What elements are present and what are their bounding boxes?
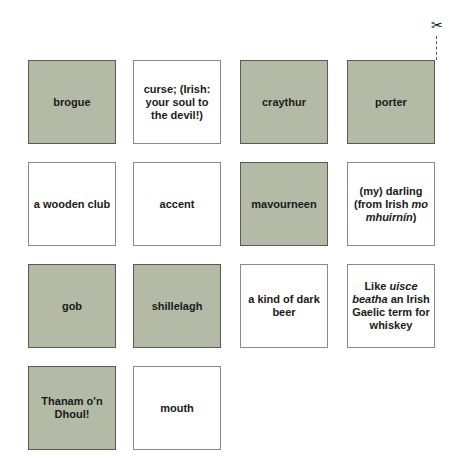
card-text: a wooden club bbox=[34, 198, 110, 211]
card-term-porter[interactable]: porter bbox=[347, 60, 435, 144]
card-definition-wooden-club[interactable]: a wooden club bbox=[28, 162, 116, 246]
card-term-mavourneen[interactable]: mavourneen bbox=[240, 162, 328, 246]
card-text: Like uisce beatha an Irish Gaelic term f… bbox=[352, 280, 430, 332]
card-text: Thanam o'n Dhoul! bbox=[33, 395, 111, 421]
card-text: (my) darling (from Irish mo mhuirnín) bbox=[352, 185, 430, 224]
card-term-shillelagh[interactable]: shillelagh bbox=[133, 264, 221, 348]
card-text: mavourneen bbox=[251, 198, 316, 211]
card-text: craythur bbox=[262, 96, 306, 109]
card-text: a kind of dark beer bbox=[245, 293, 323, 319]
scissors-icon: ✂ bbox=[430, 16, 444, 34]
card-text: shillelagh bbox=[152, 300, 203, 313]
cut-line bbox=[436, 36, 437, 60]
card-term-brogue[interactable]: brogue bbox=[28, 60, 116, 144]
card-term-thanam-on-dhoul[interactable]: Thanam o'n Dhoul! bbox=[28, 366, 116, 450]
card-definition-curse[interactable]: curse; (Irish: your soul to the devil!) bbox=[133, 60, 221, 144]
card-text: brogue bbox=[53, 96, 90, 109]
card-text: gob bbox=[62, 300, 82, 313]
card-definition-darling[interactable]: (my) darling (from Irish mo mhuirnín) bbox=[347, 162, 435, 246]
card-term-craythur[interactable]: craythur bbox=[240, 60, 328, 144]
card-definition-mouth[interactable]: mouth bbox=[133, 366, 221, 450]
card-text: porter bbox=[375, 96, 407, 109]
card-definition-dark-beer[interactable]: a kind of dark beer bbox=[240, 264, 328, 348]
card-text: accent bbox=[160, 198, 195, 211]
card-definition-accent[interactable]: accent bbox=[133, 162, 221, 246]
card-text: curse; (Irish: your soul to the devil!) bbox=[138, 83, 216, 122]
card-definition-whiskey[interactable]: Like uisce beatha an Irish Gaelic term f… bbox=[347, 264, 435, 348]
card-text: mouth bbox=[160, 402, 194, 415]
card-term-gob[interactable]: gob bbox=[28, 264, 116, 348]
